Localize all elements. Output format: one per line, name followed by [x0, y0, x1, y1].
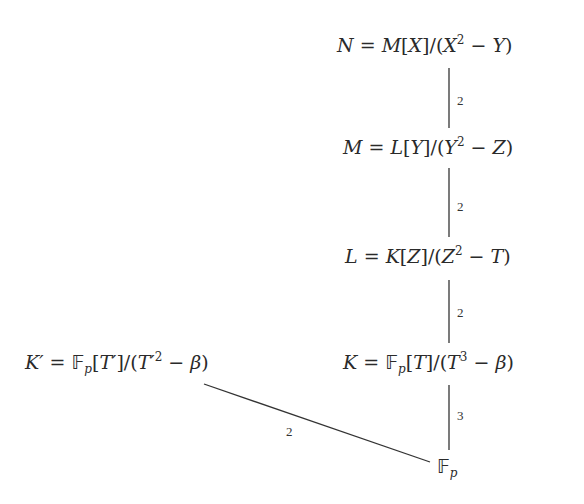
- node-M-const: Z: [493, 136, 506, 158]
- node-M-var: Y: [411, 136, 424, 158]
- bracket: ]: [420, 245, 427, 267]
- bracket: ]: [116, 351, 123, 373]
- node-Kprime-lhs: K′: [25, 351, 44, 373]
- node-M-var: Y: [444, 136, 457, 158]
- paren: (: [434, 245, 441, 267]
- equals-sign: =: [364, 245, 380, 267]
- node-M-ring: L: [390, 136, 403, 158]
- node-L: L = K[Z]/(Z2 − T): [345, 245, 511, 267]
- node-K-const: β: [495, 351, 506, 373]
- node-N-lhs: N: [337, 34, 354, 56]
- paren: ): [506, 136, 513, 158]
- node-K: K = 𝔽p[T]/(T3 − β): [343, 351, 514, 373]
- paren: (: [440, 351, 447, 373]
- bracket: [: [403, 136, 410, 158]
- bracket: [: [401, 34, 408, 56]
- paren: ): [506, 351, 513, 373]
- node-N: N = M[X]/(X2 − Y): [337, 34, 512, 56]
- node-N-var: X: [443, 34, 457, 56]
- node-Kprime-const: β: [190, 351, 201, 373]
- degree-label-M-N: 2: [457, 93, 464, 109]
- blackboard-F-symbol: 𝔽: [437, 455, 450, 477]
- equals-sign: =: [360, 34, 376, 56]
- node-M: M = L[Y]/(Y2 − Z): [343, 136, 513, 158]
- degree-label-Fp-K: 3: [457, 408, 464, 424]
- degree-label-L-M: 2: [457, 199, 464, 215]
- node-Fp: 𝔽p: [437, 455, 457, 477]
- paren: ): [201, 351, 208, 373]
- paren: (: [130, 351, 137, 373]
- node-N-ring: M: [382, 34, 401, 56]
- bracket: ]: [423, 136, 430, 158]
- node-K-var: T: [447, 351, 460, 373]
- node-Kprime: K′ = 𝔽p[T′]/(T′2 − β): [25, 351, 209, 373]
- node-N-var: X: [409, 34, 423, 56]
- minus: −: [162, 351, 190, 373]
- exponent: 2: [457, 135, 465, 149]
- node-L-lhs: L: [345, 245, 358, 267]
- node-Kprime-var: T′: [99, 351, 116, 373]
- node-L-var: Z: [407, 245, 420, 267]
- minus: −: [464, 34, 492, 56]
- subscript-p: p: [84, 362, 92, 376]
- node-L-const: T: [491, 245, 504, 267]
- node-L-ring: K: [386, 245, 400, 267]
- minus: −: [467, 351, 495, 373]
- paren: ): [505, 34, 512, 56]
- equals-sign: =: [363, 351, 379, 373]
- node-Kprime-var: T′: [138, 351, 155, 373]
- degree-label-Fp-Kprime: 2: [286, 424, 293, 440]
- blackboard-F-symbol: 𝔽: [72, 351, 85, 373]
- paren: ): [503, 245, 510, 267]
- minus: −: [465, 136, 493, 158]
- subscript-p: p: [450, 466, 458, 480]
- node-K-lhs: K: [343, 351, 357, 373]
- bracket: [: [406, 351, 413, 373]
- edge-Fp-Kprime: [204, 384, 430, 462]
- node-L-var: Z: [442, 245, 455, 267]
- subscript-p: p: [398, 362, 406, 376]
- degree-label-K-L: 2: [457, 305, 464, 321]
- equals-sign: =: [50, 351, 66, 373]
- blackboard-F-symbol: 𝔽: [385, 351, 398, 373]
- exponent: 2: [455, 244, 463, 258]
- minus: −: [463, 245, 491, 267]
- equals-sign: =: [369, 136, 385, 158]
- node-N-const: Y: [492, 34, 505, 56]
- node-K-var: T: [413, 351, 426, 373]
- node-M-lhs: M: [343, 136, 362, 158]
